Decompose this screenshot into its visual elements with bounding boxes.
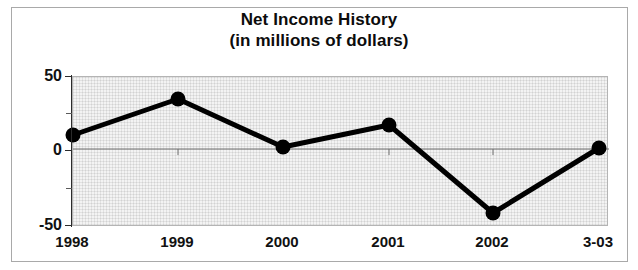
- y-tick-50: [65, 76, 72, 77]
- data-point-1998: [66, 128, 81, 143]
- x-axis-label-2000: 2000: [247, 234, 317, 249]
- x-axis-label-2001: 2001: [353, 234, 423, 249]
- data-line: [73, 99, 599, 213]
- plot-svg: [59, 63, 623, 241]
- chart-title-block: Net Income History (in millions of dolla…: [0, 10, 638, 51]
- data-point-2000: [276, 140, 291, 155]
- data-point-2001: [382, 118, 397, 133]
- y-axis-spine: [71, 75, 72, 227]
- y-tick-minor-neg25: [66, 188, 72, 189]
- data-point-2002: [486, 206, 501, 221]
- y-tick-0: [65, 150, 72, 151]
- x-axis-label-3-03: 3-03: [563, 234, 633, 249]
- y-tick-minor-25: [66, 113, 72, 114]
- data-point-1999: [171, 92, 186, 107]
- chart-figure: Net Income History (in millions of dolla…: [0, 0, 638, 270]
- y-axis-label-neg50: -50: [4, 217, 62, 233]
- data-point-3-03: [592, 141, 607, 156]
- plot-area: [72, 76, 608, 226]
- y-tick-neg50: [65, 225, 72, 226]
- x-axis-label-1999: 1999: [142, 234, 212, 249]
- chart-subtitle: (in millions of dollars): [0, 31, 638, 52]
- y-axis-label-0: 0: [4, 142, 62, 158]
- y-axis-label-50: 50: [4, 68, 62, 84]
- x-axis-label-1998: 1998: [37, 234, 107, 249]
- x-axis-label-2002: 2002: [457, 234, 527, 249]
- page-title: Net Income History: [0, 10, 638, 31]
